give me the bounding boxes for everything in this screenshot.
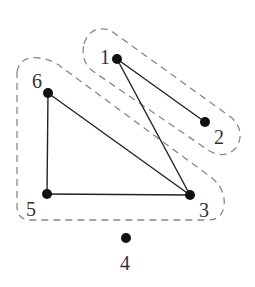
node-label-3: 3: [199, 199, 209, 221]
node-4: [121, 233, 131, 243]
edge-6-5: [47, 93, 48, 194]
edge-5-3: [47, 194, 190, 195]
node-2: [200, 117, 210, 127]
edge-1-3: [117, 59, 190, 195]
node-label-4: 4: [120, 252, 130, 274]
node-5: [42, 189, 52, 199]
edge-6-3: [48, 93, 190, 195]
node-3: [185, 190, 195, 200]
node-label-6: 6: [32, 70, 42, 92]
node-label-5: 5: [26, 198, 36, 220]
node-label-2: 2: [214, 126, 224, 148]
edge-1-2: [117, 59, 205, 122]
edges: [47, 59, 205, 195]
node-6: [43, 88, 53, 98]
node-label-1: 1: [100, 46, 110, 68]
node-1: [112, 54, 122, 64]
graph-diagram: 123456: [0, 0, 255, 287]
